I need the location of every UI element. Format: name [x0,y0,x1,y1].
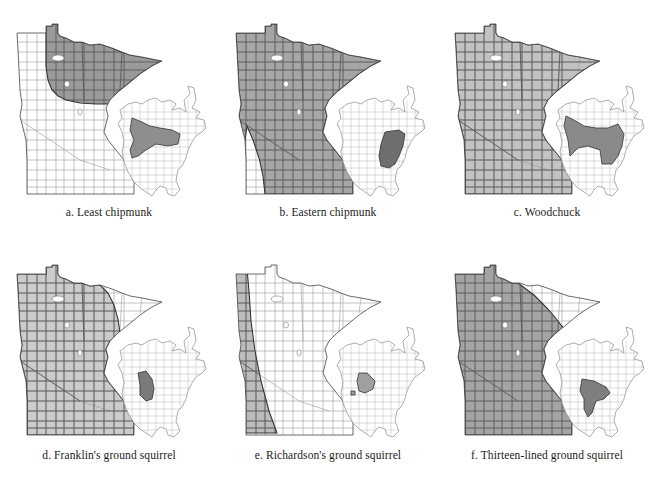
minnesota-map [219,241,437,446]
lake-red-lake [52,55,64,61]
minnesota-map [0,241,218,446]
lake-leech [503,322,508,328]
panel-least-chipmunk: a. Least chipmunk [0,0,218,240]
panel-thirteen-lined-ground-squirrel: f. Thirteen-lined ground squirrel [438,241,656,481]
panel-eastern-chipmunk: b. Eastern chipmunk [219,0,437,240]
lake-mille-lacs [78,350,82,356]
lake-red-lake [271,55,283,61]
lake-mille-lacs [78,109,82,115]
lake-leech [503,81,508,87]
panel-richardsons-ground-squirrel: e. Richardson's ground squirrel [219,241,437,481]
lake-leech [284,322,289,328]
lake-mille-lacs [516,350,520,356]
lake-leech [65,322,70,328]
caption: a. Least chipmunk [0,206,218,218]
panel-franklins-ground-squirrel: d. Franklin's ground squirrel [0,241,218,481]
lake-red-lake [490,55,502,61]
lake-red-lake [271,296,283,302]
minnesota-map [219,0,437,205]
caption: e. Richardson's ground squirrel [219,449,437,461]
caption: b. Eastern chipmunk [219,206,437,218]
caption: f. Thirteen-lined ground squirrel [438,449,656,461]
lake-mille-lacs [297,350,301,356]
lake-red-lake [490,296,502,302]
caption: d. Franklin's ground squirrel [0,449,218,461]
lake-mille-lacs [516,109,520,115]
lake-mille-lacs [297,109,301,115]
minnesota-map [0,0,218,205]
minnesota-map [438,241,656,446]
panel-woodchuck: c. Woodchuck [438,0,656,240]
caption: c. Woodchuck [438,206,656,218]
lake-red-lake [52,296,64,302]
lake-leech [65,81,70,87]
minnesota-map [438,0,656,205]
lake-leech [284,81,289,87]
